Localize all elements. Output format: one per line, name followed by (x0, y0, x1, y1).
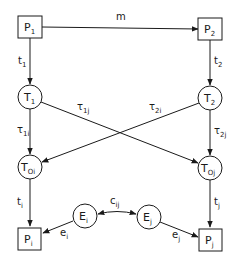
edge-cij (98, 212, 136, 215)
edge-label-tau1j: τ1j (77, 101, 89, 115)
node-Pi: Pi (18, 228, 41, 250)
edge-label-tau1i: τ1i (17, 124, 29, 138)
edge-label-t1: t1 (18, 55, 26, 69)
process-flow-diagram: m t1 t2 τ1i τ1j τ2i τ2j ti tj ei ej cij … (0, 0, 239, 263)
edge-label-tau2j: τ2j (214, 125, 226, 139)
node-P2: P2 (198, 18, 222, 40)
node-Toj: TOj (198, 156, 222, 180)
node-Toi: TOi (18, 155, 42, 179)
edge-label-m: m (116, 11, 126, 22)
node-Ei: Ei (73, 204, 97, 228)
node-Ej: Ej (137, 205, 161, 229)
node-P1: P1 (18, 16, 42, 38)
node-Pj: Pj (199, 229, 222, 251)
edge-label-ei: ei (60, 227, 68, 241)
edge-ei (43, 221, 73, 233)
edge-label-ti: ti (17, 196, 23, 210)
edge-label-tau2i: τ2i (149, 101, 161, 115)
edge-label-ej: ej (172, 229, 180, 243)
edge-label-t2: t2 (214, 55, 222, 69)
node-T2: T2 (198, 86, 222, 110)
node-T1: T1 (18, 85, 42, 109)
edge-label-cij: cij (110, 195, 119, 209)
edge-label-tj: tj (214, 196, 220, 210)
edge-m (42, 27, 198, 29)
